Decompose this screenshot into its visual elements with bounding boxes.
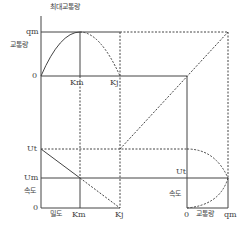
km-label-top: Km [70, 79, 84, 87]
speed-line-solid [41, 149, 80, 178]
flow-density-panel [41, 16, 228, 208]
density-label: 밀도 [50, 211, 62, 218]
zero-label-right: 0 [184, 211, 189, 219]
speed-flow-curve-dashed-lower [187, 178, 228, 208]
flow-curve-solid [41, 32, 80, 76]
speed-flow-curve-dashed-upper [187, 149, 228, 178]
flow-label-right: 교통량 [196, 211, 214, 218]
zero-label-bottom: 0 [33, 204, 38, 212]
transfer-panel [120, 32, 228, 208]
flow-curve-dashed [80, 32, 120, 76]
zero-label-top: 0 [32, 72, 37, 80]
ut-label-right: Ut [176, 168, 186, 176]
max-flow-title: 최대교통량 [50, 4, 80, 11]
km-label-bottom: Km [72, 211, 86, 219]
um-label: Um [24, 174, 38, 182]
speed-density-panel [41, 149, 228, 208]
speed-line-dashed [80, 178, 120, 208]
kj-label-top: Kj [110, 79, 118, 87]
speed-label-right: 속도 [169, 191, 181, 198]
flow-label: 교통량 [10, 42, 28, 49]
speed-label-left: 속도 [24, 188, 36, 195]
diagonal-line [120, 32, 228, 149]
ut-label-left: Ut [27, 145, 37, 153]
qm-label: qm [26, 28, 39, 36]
qm-label-right: qm [224, 211, 237, 219]
kj-label-bottom: Kj [115, 211, 123, 219]
